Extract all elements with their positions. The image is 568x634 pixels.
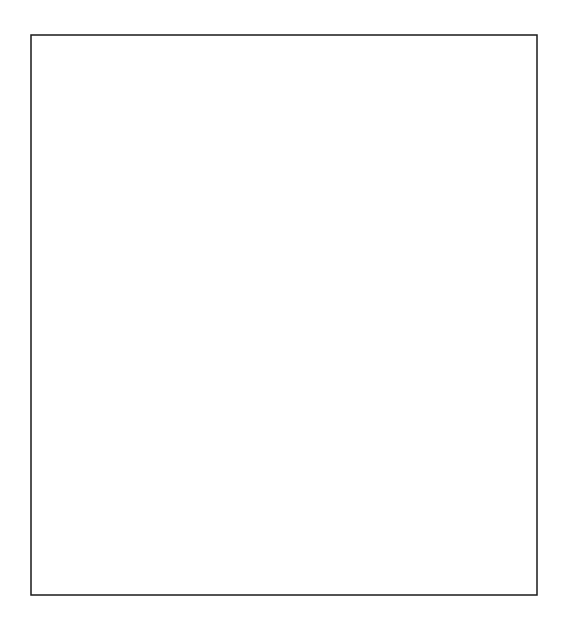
canvas-background bbox=[0, 0, 568, 634]
figure-root bbox=[0, 0, 568, 634]
pattern-drawing bbox=[0, 0, 568, 634]
